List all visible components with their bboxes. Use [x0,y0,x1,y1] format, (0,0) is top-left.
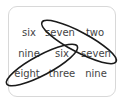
grid-cell-r1c1: six [22,28,36,38]
grid-cell-r1c2: seven [45,28,75,38]
grid-cell-r2c2: six [55,49,69,59]
grid-cell-r2c1: nine [18,49,40,59]
puzzle-stage: six seven two nine six seven eight three… [0,0,121,103]
grid-cell-r3c1: eight [14,69,40,79]
grid-cell-r2c3: seven [81,49,111,59]
grid-cell-r3c3: nine [85,69,107,79]
grid-cell-r3c2: three [49,69,75,79]
grid-cell-r1c3: two [86,28,104,38]
